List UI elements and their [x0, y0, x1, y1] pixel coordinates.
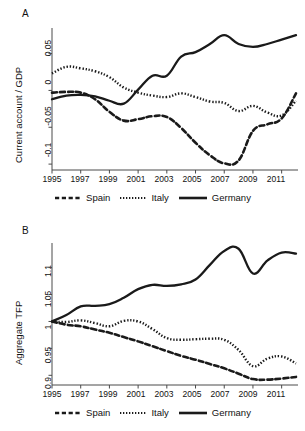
legend-entry-italy: Italy [119, 193, 168, 203]
legend-label-spain: Spain [86, 193, 110, 203]
panel-a-legend: Spain Italy Germany [0, 189, 305, 207]
panel-b: B Aggregate TFP 1.1 1.05 1 0.95 0.9 1995… [0, 213, 305, 431]
legend-entry-italy: Italy [119, 408, 168, 418]
legend-entry-germany: Germany [178, 193, 251, 203]
panel-a: A Current account / GDP 0.05 0 -0.05 -0.… [0, 0, 305, 215]
figure-root: A Current account / GDP 0.05 0 -0.05 -0.… [0, 0, 305, 431]
legend-entry-germany: Germany [178, 408, 251, 418]
panel-a-plot-area [0, 0, 305, 190]
panel-a-series-group [52, 35, 296, 165]
solid-line-swatch [178, 409, 208, 417]
series-line-italy [52, 67, 296, 117]
legend-entry-spain: Spain [54, 408, 110, 418]
panel-b-svg [0, 213, 305, 405]
panel-b-axes [49, 243, 299, 389]
series-line-spain [52, 92, 296, 165]
panel-a-axes [49, 28, 299, 174]
dashed-line-swatch [54, 194, 82, 202]
dotted-line-swatch [119, 409, 147, 417]
panel-b-plot-area [0, 213, 305, 405]
dashed-line-swatch [54, 409, 82, 417]
dotted-line-swatch [119, 194, 147, 202]
legend-label-italy: Italy [151, 193, 168, 203]
panel-b-legend: Spain Italy Germany [0, 404, 305, 422]
series-line-germany [52, 247, 296, 322]
legend-entry-spain: Spain [54, 193, 110, 203]
panel-a-svg [0, 0, 305, 190]
solid-line-swatch [178, 194, 208, 202]
panel-b-series-group [52, 247, 296, 380]
legend-label-spain: Spain [86, 408, 110, 418]
legend-label-italy: Italy [151, 408, 168, 418]
series-line-spain [52, 321, 296, 379]
legend-label-germany: Germany [212, 408, 251, 418]
legend-label-germany: Germany [212, 193, 251, 203]
